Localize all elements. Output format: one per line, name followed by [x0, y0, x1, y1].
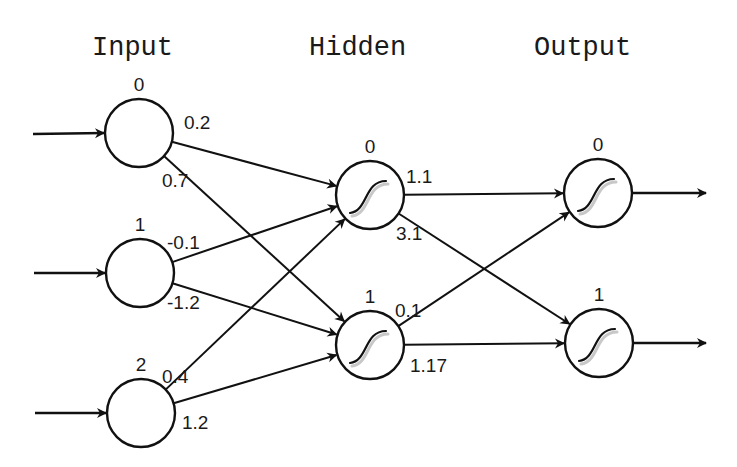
edge-hidden-0-to-output-0 [404, 193, 563, 194]
layer-title-hidden: Hidden [309, 33, 406, 63]
weight-label: 3.1 [396, 223, 422, 244]
neuron-circle [105, 99, 173, 167]
output-node-1: 1 [565, 284, 633, 377]
edge-input-0-to-hidden-0 [172, 142, 336, 186]
weight-label: 0.4 [162, 366, 189, 387]
input-node-1: 1 [106, 214, 174, 307]
weight-label: -1.2 [167, 292, 200, 313]
layer-title-input: Input [92, 33, 173, 63]
edge-input-2-to-hidden-1 [174, 355, 337, 403]
node-index-label: 1 [365, 286, 376, 307]
weight-label: 0.2 [184, 112, 210, 133]
node-index-label: 2 [136, 354, 147, 375]
edge-hidden-1-to-output-1 [404, 343, 564, 344]
input-node-0: 0 [105, 74, 173, 167]
weight-label: 1.2 [182, 412, 208, 433]
weight-label: 0.1 [395, 300, 421, 321]
layer-title-output: Output [534, 33, 631, 63]
output-node-0: 0 [564, 134, 632, 227]
neuron-circle [107, 379, 175, 447]
neural-network-diagram: InputHiddenOutput 0120101 0.20.7-0.1-1.2… [0, 0, 737, 467]
weight-label: 0.7 [162, 170, 188, 191]
weight-label: 1.17 [410, 355, 447, 376]
weight-labels: 0.20.7-0.1-1.20.41.21.13.10.11.17 [162, 112, 447, 433]
node-index-label: 1 [594, 284, 605, 305]
layer-titles: InputHiddenOutput [92, 33, 631, 63]
hidden-node-0: 0 [336, 136, 404, 229]
node-index-label: 1 [135, 214, 146, 235]
node-index-label: 0 [134, 74, 145, 95]
input-arrow-0-icon [33, 133, 104, 134]
weight-label: -0.1 [167, 232, 200, 253]
node-index-label: 0 [593, 134, 604, 155]
weight-label: 1.1 [406, 166, 432, 187]
node-index-label: 0 [365, 136, 376, 157]
neuron-circle [106, 239, 174, 307]
hidden-node-1: 1 [336, 286, 404, 379]
